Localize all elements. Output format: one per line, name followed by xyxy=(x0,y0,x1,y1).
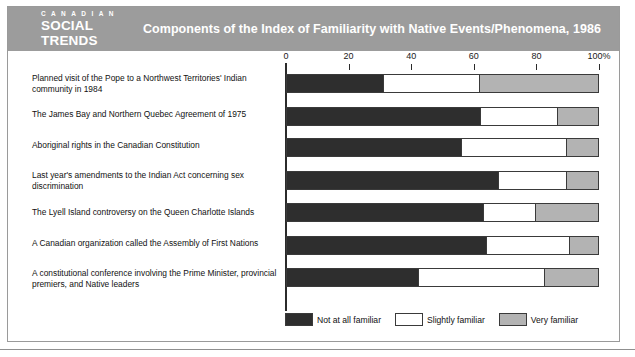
chart-card: C A N A D I A N SOCIAL TRENDS Components… xyxy=(7,6,620,342)
bar-segment-0 xyxy=(287,172,498,189)
legend-swatch xyxy=(499,313,527,326)
row-label: The James Bay and Northern Quebec Agreem… xyxy=(32,109,280,120)
chart-page: C A N A D I A N SOCIAL TRENDS Components… xyxy=(0,0,635,357)
legend-label: Not at all familiar xyxy=(317,315,381,325)
bar-segment-2 xyxy=(536,204,598,221)
row-label: A constitutional conference involving th… xyxy=(32,268,280,290)
bar-segment-0 xyxy=(287,269,418,286)
bar-segment-2 xyxy=(567,139,598,156)
legend-label: Very familiar xyxy=(531,315,578,325)
x-tick-label-60: 60 xyxy=(469,51,479,61)
stacked-bar xyxy=(286,171,599,190)
logo-line-canadian: C A N A D I A N xyxy=(41,11,125,18)
x-tick-label-80: 80 xyxy=(531,51,541,61)
x-axis-tick-labels: 020406080100% xyxy=(8,51,619,71)
stacked-bar xyxy=(286,138,599,157)
plot-area: 020406080100% Planned visit of the Pope … xyxy=(8,51,619,341)
x-tick-mark-80 xyxy=(536,64,537,70)
chart-header-band: C A N A D I A N SOCIAL TRENDS Components… xyxy=(8,7,619,51)
bar-segment-1 xyxy=(498,172,566,189)
canadian-social-trends-logo: C A N A D I A N SOCIAL TRENDS xyxy=(41,11,125,48)
legend-swatch xyxy=(285,313,313,326)
bar-segment-0 xyxy=(287,75,383,92)
bar-segment-0 xyxy=(287,237,486,254)
bar-segment-0 xyxy=(287,139,461,156)
bar-segment-1 xyxy=(418,269,546,286)
bar-segment-1 xyxy=(480,108,558,125)
row-label: The Lyell Island controversy on the Quee… xyxy=(32,207,280,218)
bar-segment-2 xyxy=(570,237,598,254)
legend-item[interactable]: Slightly familiar xyxy=(395,313,485,326)
bar-segment-1 xyxy=(383,75,479,92)
x-tick-label-0: 0 xyxy=(283,51,288,61)
logo-line-social: SOCIAL xyxy=(41,19,125,33)
row-label: A Canadian organization called the Assem… xyxy=(32,238,280,249)
logo-line-trends: TRENDS xyxy=(41,34,125,48)
bar-segment-2 xyxy=(558,108,598,125)
bar-segment-0 xyxy=(287,204,483,221)
chart-title: Components of the Index of Familiarity w… xyxy=(143,22,601,36)
row-label: Last year's amendments to the Indian Act… xyxy=(32,170,280,192)
stacked-bar xyxy=(286,203,599,222)
x-tick-label-40: 40 xyxy=(406,51,416,61)
legend-item[interactable]: Very familiar xyxy=(499,313,578,326)
row-label: Planned visit of the Pope to a Northwest… xyxy=(32,73,280,95)
bar-segment-1 xyxy=(483,204,536,221)
bar-segment-2 xyxy=(567,172,598,189)
x-tick-mark-20 xyxy=(349,64,350,70)
stacked-bar xyxy=(286,107,599,126)
legend-item[interactable]: Not at all familiar xyxy=(285,313,381,326)
bar-segment-0 xyxy=(287,108,480,125)
x-tick-label-100: 100% xyxy=(587,51,610,61)
x-tick-mark-40 xyxy=(411,64,412,70)
chart-legend: Not at all familiarSlightly familiarVery… xyxy=(285,313,578,326)
bar-segment-2 xyxy=(545,269,598,286)
legend-label: Slightly familiar xyxy=(427,315,485,325)
bar-segment-2 xyxy=(480,75,598,92)
x-tick-mark-100 xyxy=(599,64,600,70)
stacked-bar xyxy=(286,268,599,287)
x-tick-mark-60 xyxy=(474,64,475,70)
stacked-bar xyxy=(286,236,599,255)
bar-segment-1 xyxy=(486,237,570,254)
x-tick-label-20: 20 xyxy=(344,51,354,61)
stacked-bar xyxy=(286,74,599,93)
legend-swatch xyxy=(395,313,423,326)
row-label: Aboriginal rights in the Canadian Consti… xyxy=(32,140,280,151)
bottom-rule xyxy=(0,349,635,350)
bar-segment-1 xyxy=(461,139,567,156)
